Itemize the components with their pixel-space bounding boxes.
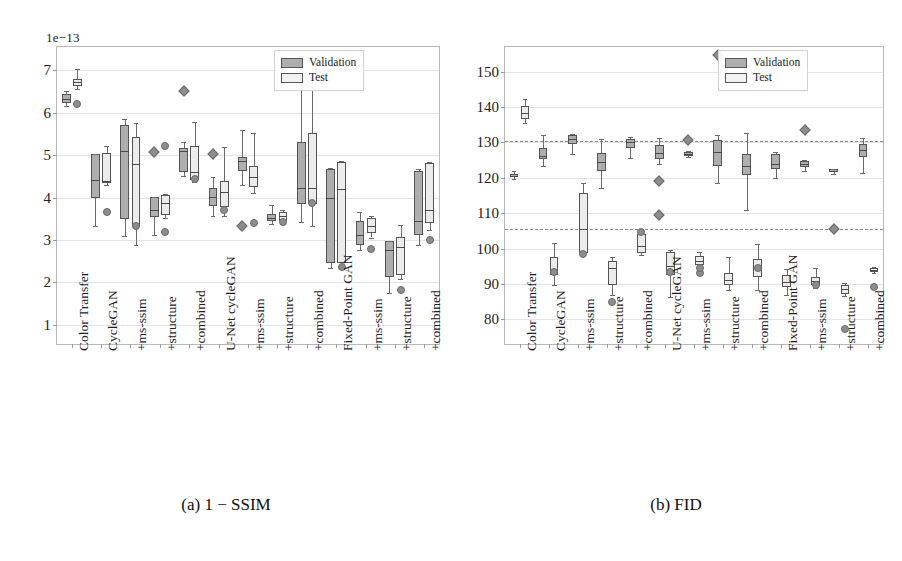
median-test-10 (367, 226, 376, 227)
whisker-cap-upper-validation-8 (744, 133, 749, 134)
whisker-upper-test-10 (816, 268, 817, 276)
whisker-lower-validation-8 (747, 175, 748, 210)
whisker-cap-lower-test-12 (427, 230, 432, 231)
y-gridline (505, 249, 883, 250)
whisker-cap-upper-validation-6 (686, 151, 691, 152)
box-validation-8 (297, 142, 306, 203)
median-validation-9 (326, 198, 335, 199)
whisker-cap-upper-test-0 (523, 99, 528, 100)
whisker-cap-lower-test-0 (75, 89, 80, 90)
x-tick-mark (607, 344, 608, 348)
whisker-lower-validation-5 (213, 206, 214, 216)
x-tick-mark (160, 344, 161, 348)
median-validation-5 (209, 197, 218, 198)
whisker-cap-lower-test-7 (726, 290, 731, 291)
y-tick-mark (501, 142, 505, 143)
whisker-cap-upper-validation-3 (152, 197, 157, 198)
whisker-cap-upper-validation-7 (269, 205, 274, 206)
whisker-cap-lower-validation-9 (773, 178, 778, 179)
y-tick-mark (53, 325, 57, 326)
box-validation-0 (62, 94, 71, 103)
whisker-lower-validation-1 (95, 198, 96, 226)
whisker-cap-upper-test-7 (280, 210, 285, 211)
outlier-test-8-0 (308, 199, 316, 207)
whisker-upper-test-1 (107, 146, 108, 154)
x-tick-mark (424, 344, 425, 348)
outlier-test-5-0 (220, 206, 228, 214)
whisker-cap-lower-validation-6 (240, 185, 245, 186)
whisker-cap-upper-validation-9 (328, 168, 333, 169)
x-tick-mark (868, 344, 869, 348)
legend-label-test: Test (753, 70, 772, 85)
whisker-upper-validation-8 (747, 133, 748, 154)
box-validation-1 (91, 154, 100, 198)
box-validation-2 (120, 125, 129, 218)
whisker-upper-test-1 (554, 243, 555, 257)
legend-swatch-test (281, 73, 303, 83)
whisker-cap-lower-validation-4 (628, 158, 633, 159)
x-tick-label-9: Fixed-Point GAN (340, 255, 356, 351)
whisker-lower-validation-4 (630, 148, 631, 158)
whisker-cap-upper-validation-12 (416, 169, 421, 170)
x-tick-label-0: Color Transfer (76, 272, 92, 351)
x-tick-mark (549, 344, 550, 348)
median-test-3 (161, 203, 170, 204)
y-tick-mark (501, 249, 505, 250)
whisker-upper-test-2 (136, 123, 137, 137)
whisker-lower-validation-7 (718, 166, 719, 184)
x-tick-mark (752, 344, 753, 348)
whisker-upper-validation-10 (360, 212, 361, 220)
median-validation-4 (179, 151, 188, 152)
outlier-test-6-0 (250, 219, 258, 227)
figure-boxplots: 1e−13 1234567 Validation Test (a) 1 − SS… (0, 0, 902, 561)
legend-swatch-test (725, 73, 747, 83)
median-validation-11 (385, 250, 394, 251)
whisker-cap-lower-test-0 (523, 123, 528, 124)
whisker-cap-lower-validation-4 (181, 176, 186, 177)
legend-row-test: Test (281, 70, 356, 85)
whisker-upper-test-8 (758, 244, 759, 260)
reference-line-1 (505, 141, 883, 142)
whisker-cap-lower-test-3 (163, 218, 168, 219)
y-axis-exponent-label: 1e−13 (46, 30, 80, 46)
median-test-0 (521, 113, 530, 114)
box-validation-1 (539, 148, 548, 159)
median-test-7 (279, 216, 288, 217)
x-tick-label-1: CycleGAN (105, 290, 121, 351)
whisker-cap-upper-validation-11 (387, 241, 392, 242)
x-tick-mark (665, 344, 666, 348)
x-tick-label-2: +ms-ssim (582, 298, 598, 351)
y-gridline (57, 240, 439, 241)
whisker-upper-validation-7 (272, 205, 273, 213)
whisker-cap-upper-test-11 (398, 225, 403, 226)
whisker-cap-upper-test-11 (842, 283, 847, 284)
median-test-3 (608, 268, 617, 269)
x-tick-mark (781, 344, 782, 348)
median-validation-8 (297, 188, 306, 189)
y-tick-mark (53, 70, 57, 71)
box-test-1 (102, 153, 111, 183)
x-tick-mark (723, 344, 724, 348)
outlier-test-10-0 (367, 245, 375, 253)
box-test-2 (132, 137, 141, 228)
whisker-upper-test-0 (77, 69, 78, 79)
median-test-5 (220, 192, 229, 193)
whisker-cap-upper-test-9 (339, 161, 344, 162)
y-tick-mark (53, 113, 57, 114)
whisker-cap-upper-test-2 (581, 183, 586, 184)
whisker-upper-test-6 (254, 133, 255, 166)
whisker-cap-upper-validation-1 (93, 154, 98, 155)
x-tick-label-2: +ms-ssim (134, 298, 150, 351)
whisker-lower-test-8 (758, 277, 759, 290)
box-test-9 (337, 162, 346, 263)
whisker-cap-upper-test-12 (427, 162, 432, 163)
whisker-upper-test-11 (401, 225, 402, 237)
x-tick-mark (101, 344, 102, 348)
outlier-test-2-0 (132, 222, 140, 230)
whisker-cap-upper-validation-10 (802, 160, 807, 161)
whisker-cap-upper-test-6 (697, 252, 702, 253)
whisker-cap-lower-validation-5 (211, 216, 216, 217)
whisker-cap-upper-test-5 (668, 250, 673, 251)
median-test-4 (637, 246, 646, 247)
x-tick-mark (694, 344, 695, 348)
